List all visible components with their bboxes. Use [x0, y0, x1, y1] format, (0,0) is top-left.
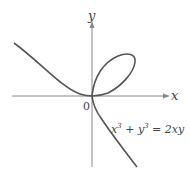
x-axis-label: x — [171, 88, 178, 103]
x-axis-arrow-icon — [163, 94, 170, 99]
eq-rhs: = 2xy — [149, 123, 185, 136]
curve-loop — [92, 54, 135, 96]
plot-area — [0, 0, 189, 182]
eq-plus: + — [122, 123, 138, 136]
equation-label: x3 + y3 = 2xy — [111, 122, 184, 136]
folium-diagram: x y 0 x3 + y3 = 2xy — [0, 0, 189, 182]
origin-label: 0 — [83, 100, 90, 113]
y-axis-label: y — [88, 8, 95, 23]
curve-left-branch — [14, 43, 92, 96]
